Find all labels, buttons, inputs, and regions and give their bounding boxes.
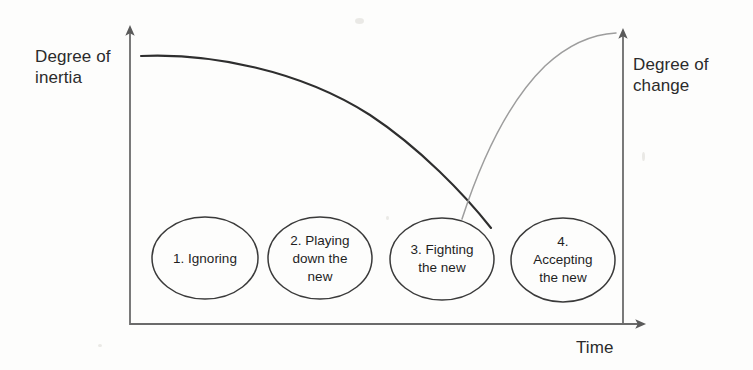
scan-speck xyxy=(642,152,645,161)
stage-ellipse-2[interactable]: 2. Playing down the new xyxy=(268,217,372,299)
stage-ellipse-4[interactable]: 4. Accepting the new xyxy=(511,218,615,302)
stage-3-label-line-1: 3. Fighting xyxy=(410,242,473,257)
scan-speck xyxy=(98,344,102,347)
stage-2-label-line-2: down the xyxy=(293,251,348,266)
left-axis-label: Degree of inertia xyxy=(35,46,111,88)
change-curve xyxy=(462,33,616,219)
inertia-curve xyxy=(141,56,491,228)
stage-ellipse-3[interactable]: 3. Fighting the new xyxy=(390,218,494,300)
scan-speck xyxy=(386,216,389,220)
stage-1-label-line-1: 1. Ignoring xyxy=(173,251,237,266)
stage-3-outline xyxy=(390,218,494,300)
stage-3-label-line-2: the new xyxy=(418,260,466,275)
scan-speck xyxy=(355,18,364,24)
stage-4-label-line-2: Accepting xyxy=(533,252,592,267)
stage-2-label-line-1: 2. Playing xyxy=(290,233,349,248)
bottom-axis-label: Time xyxy=(576,337,614,358)
stage-2-label-line-3: new xyxy=(308,269,333,284)
diagram-canvas: 1. Ignoring 2. Playing down the new 3. F… xyxy=(0,0,753,370)
right-axis-label: Degree of change xyxy=(633,54,709,96)
stage-4-label-line-3: the new xyxy=(539,270,587,285)
stage-4-label-line-1: 4. xyxy=(557,234,568,249)
stage-ellipse-1[interactable]: 1. Ignoring xyxy=(152,217,258,299)
